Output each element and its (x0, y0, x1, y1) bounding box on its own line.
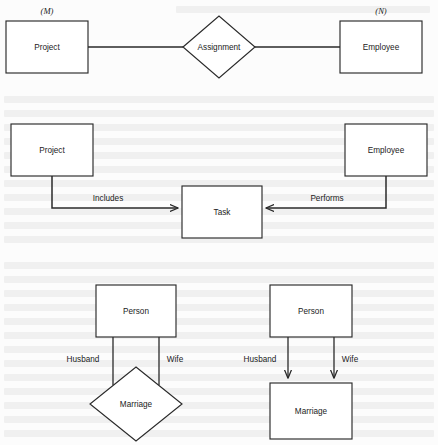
er-diagram-figure: (M) (N) Project Assignment Employee Proj… (0, 0, 438, 445)
entity-label-task: Task (214, 208, 232, 217)
diagram-marriage-diamond: Person Husband Wife Marriage (67, 285, 184, 441)
diagram-assignment: (M) (N) Project Assignment Employee (6, 6, 422, 78)
relationship-label-assignment: Assignment (198, 43, 242, 52)
edge-label-husband-left: Husband (67, 355, 100, 364)
edge-label-performs: Performs (310, 194, 343, 203)
entity-label-employee-top: Employee (363, 43, 400, 52)
cardinality-label-m: (M) (41, 6, 54, 16)
entity-label-person-left: Person (123, 307, 149, 316)
edge-label-husband-right: Husband (244, 355, 277, 364)
edge-label-wife-left: Wife (167, 355, 184, 364)
entity-label-marriage-right: Marriage (295, 407, 328, 416)
diagram-marriage-box: Person Husband Wife Marriage (244, 285, 359, 439)
diagram-task: Project Includes Task Performs Employee (11, 124, 427, 238)
entity-label-project-top: Project (34, 43, 60, 52)
diagram-canvas: (M) (N) Project Assignment Employee Proj… (0, 0, 438, 445)
entity-label-employee-mid: Employee (368, 146, 405, 155)
entity-label-project-mid: Project (39, 146, 65, 155)
edge-label-includes: Includes (93, 194, 124, 203)
edge-employee-task-performs (266, 176, 386, 208)
edge-project-task-includes (52, 176, 178, 208)
relationship-label-marriage-left: Marriage (120, 400, 153, 409)
entity-label-person-right: Person (298, 307, 324, 316)
cardinality-label-n: (N) (375, 6, 387, 16)
edge-label-wife-right: Wife (342, 355, 359, 364)
